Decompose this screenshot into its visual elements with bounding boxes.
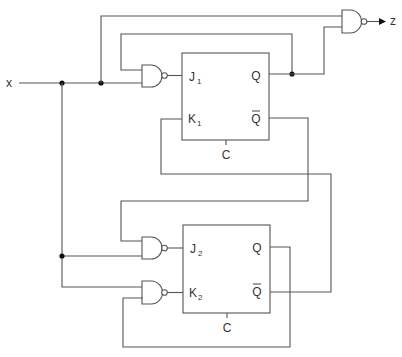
output-arrow-icon (379, 18, 386, 25)
ff2-q-label: Q (252, 241, 261, 255)
ff1-k-label: K (188, 112, 196, 126)
output-z-label: z (390, 14, 396, 28)
ff1-clock-label: C (222, 148, 231, 162)
ff2-clock-label: C (223, 321, 232, 335)
ff1-qbar-label: Q (251, 112, 260, 126)
ff2-j-sub: 2 (198, 249, 203, 258)
ff1-q-label: Q (251, 69, 260, 83)
nand-gate-z (342, 10, 367, 33)
ff2-k-sub: 2 (198, 293, 203, 302)
nand-gate-k2 (142, 281, 167, 304)
flip-flop-2: J 2 K 2 Q Q C (183, 225, 270, 335)
nand-gate-j2 (142, 237, 167, 259)
nand-gate-j1 (142, 65, 167, 87)
junction-x-lower (59, 253, 64, 258)
ff2-j-label: J (190, 242, 196, 256)
ff1-j-label: J (189, 70, 195, 84)
flip-flop-1: J 1 K 1 Q Q C (182, 53, 269, 162)
ff2-k-label: K (189, 286, 197, 300)
ff1-j-sub: 1 (197, 77, 202, 86)
ff2-qbar-label: Q (252, 285, 261, 299)
ff1-k-sub: 1 (197, 119, 202, 128)
circuit-diagram: x J 1 K 1 Q Q C z (0, 0, 402, 357)
input-x-label: x (6, 76, 12, 90)
